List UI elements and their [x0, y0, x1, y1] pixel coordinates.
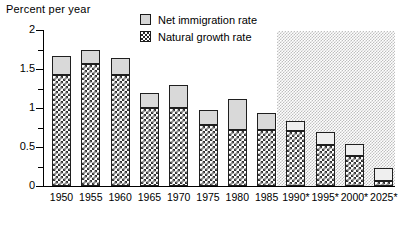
y-axis-title: Percent per year [6, 3, 91, 15]
bar-2000-projected [345, 144, 364, 186]
bar-1970 [169, 85, 188, 186]
y-tick-minor [38, 89, 43, 90]
y-tick-label: 1 [0, 101, 35, 113]
y-tick-major [36, 108, 43, 109]
bar-1960 [111, 58, 130, 186]
bar-1980 [228, 99, 247, 186]
bar-1950 [52, 56, 71, 186]
legend-item-net-immigration: Net immigration rate [140, 12, 257, 27]
bar-1985 [257, 113, 276, 186]
bar-segment-net-immigration [81, 50, 100, 64]
bar-segment-natural-growth [374, 181, 393, 186]
y-tick-major [36, 69, 43, 70]
bar-segment-net-immigration [111, 58, 130, 75]
legend-swatch-net-immigration-icon [140, 14, 151, 25]
bar-segment-net-immigration [316, 132, 335, 145]
legend-label-net-immigration: Net immigration rate [158, 14, 257, 26]
plot-area: 195019551960196519701975198019851990*199… [43, 30, 395, 186]
y-axis-line [43, 30, 44, 186]
y-tick-major [36, 30, 43, 31]
bar-2025-projected [374, 168, 393, 186]
bar-segment-natural-growth [316, 145, 335, 186]
bar-1990-projected [286, 120, 305, 186]
bar-1965 [140, 93, 159, 186]
bar-segment-net-immigration [345, 144, 364, 156]
bar-segment-natural-growth [199, 125, 218, 186]
bar-segment-net-immigration [374, 168, 393, 180]
y-tick-major [36, 147, 43, 148]
bar-segment-natural-growth [52, 75, 71, 186]
bar-segment-natural-growth [257, 130, 276, 186]
x-tick-label: 2025* [364, 191, 404, 203]
bar-segment-net-immigration [199, 110, 218, 125]
bar-segment-natural-growth [140, 108, 159, 186]
bar-segment-net-immigration [228, 99, 247, 130]
bar-segment-net-immigration [52, 56, 71, 76]
bar-segment-natural-growth [111, 75, 130, 186]
y-tick-minor [38, 50, 43, 51]
y-tick-label: 1.5 [0, 62, 35, 74]
x-axis-line [43, 186, 395, 187]
bar-segment-net-immigration [140, 93, 159, 108]
bar-segment-net-immigration [169, 85, 188, 108]
y-tick-label: 0 [0, 179, 35, 191]
y-tick-minor [38, 167, 43, 168]
bar-segment-natural-growth [345, 156, 364, 186]
y-tick-major [36, 186, 43, 187]
population-growth-chart: Percent per year Net immigration rate Na… [0, 0, 404, 225]
y-tick-label: 0.5 [0, 140, 35, 152]
bar-1955 [81, 50, 100, 186]
bar-1995-projected [316, 132, 335, 186]
bar-segment-net-immigration [257, 113, 276, 129]
y-tick-label: 2 [0, 23, 35, 35]
bar-segment-net-immigration [286, 121, 305, 132]
bar-segment-natural-growth [169, 108, 188, 186]
y-tick-minor [38, 128, 43, 129]
bar-segment-natural-growth [81, 64, 100, 186]
bar-1975 [199, 110, 218, 186]
bar-segment-natural-growth [286, 131, 305, 186]
bar-segment-natural-growth [228, 130, 247, 186]
